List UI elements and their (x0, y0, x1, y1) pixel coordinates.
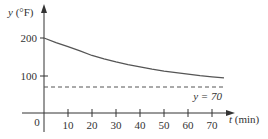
y-axis-unit: (°F) (13, 6, 34, 19)
x-tick-label-30: 30 (111, 119, 123, 131)
x-tick-label-40: 40 (135, 119, 147, 131)
x-tick-label-10: 10 (63, 119, 75, 131)
asymptote-label: y = 70 (192, 90, 222, 102)
y-axis-arrow-icon (41, 4, 47, 13)
x-axis-label: t (min) (229, 113, 260, 126)
x-tick-label-70: 70 (207, 119, 219, 131)
y-tick-label-100: 100 (21, 70, 38, 82)
x-axis-unit: (min) (232, 113, 260, 126)
temperature-chart: 200 100 10 20 30 40 50 60 70 0 y (°F) t … (0, 0, 268, 139)
y-axis-label: y (°F) (7, 6, 34, 19)
x-tick-label-50: 50 (159, 119, 171, 131)
x-tick-label-60: 60 (183, 119, 195, 131)
x-tick-label-20: 20 (87, 119, 99, 131)
temperature-curve (44, 38, 224, 78)
y-tick-label-200: 200 (21, 32, 38, 44)
origin-label: 0 (34, 116, 40, 128)
